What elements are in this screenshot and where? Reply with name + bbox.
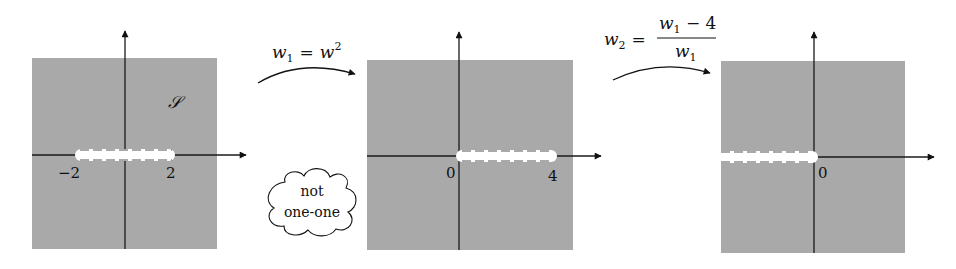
panel-w-plane: 𝒮 −2 2 [32, 31, 246, 249]
map-arrow-1 [258, 68, 355, 83]
panel-w1-plane: 0 4 [367, 32, 601, 250]
panel-w2-plane: 0 [721, 32, 934, 253]
tick-label-4: 4 [548, 167, 558, 185]
cloud-shape [268, 169, 356, 236]
slit [721, 151, 818, 163]
map-formula-2-denominator: w1 [675, 41, 697, 64]
slit [75, 149, 175, 161]
not-one-one-cloud: not one-one [268, 169, 356, 236]
conformal-map-diagram: 𝒮 −2 2 w1=w2 not one-one 0 4 w2= w1 − 4 [0, 0, 956, 269]
tick-label-0: 0 [446, 164, 456, 182]
map-formula-2-numerator: w1 − 4 [659, 13, 716, 36]
tick-label-neg2: −2 [58, 164, 80, 182]
map-arrow-2 [613, 67, 710, 80]
map-w2-mobius: w2= w1 − 4 w1 [604, 13, 716, 80]
map-formula-2-lhs: w2= [604, 29, 646, 52]
slit [456, 150, 557, 162]
tick-label-0: 0 [818, 164, 828, 182]
tick-label-2: 2 [166, 164, 176, 182]
map-formula-1: w1=w2 [272, 40, 341, 65]
map-w1-equals-w-squared: w1=w2 [258, 40, 355, 83]
cloud-text-line2: one-one [284, 204, 340, 220]
cloud-text-line1: not [300, 183, 323, 199]
